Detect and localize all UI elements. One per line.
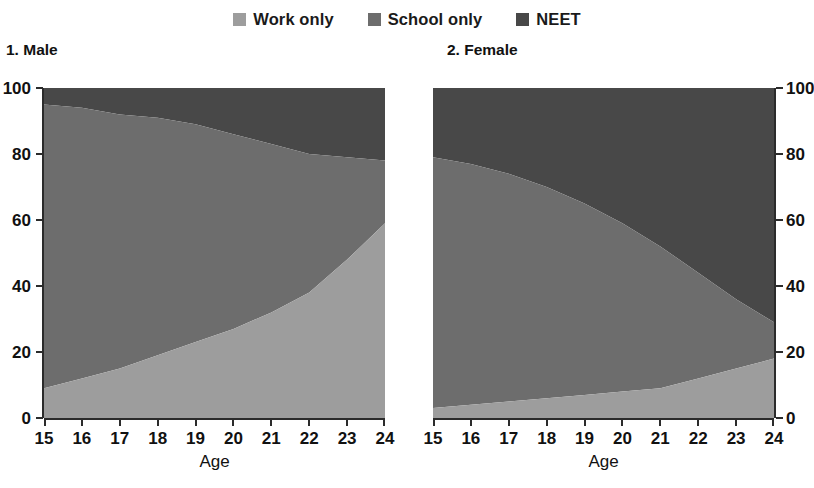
x-tick-mark xyxy=(697,420,699,426)
x-tick-mark xyxy=(433,420,435,426)
y-tick-mark xyxy=(36,219,43,221)
x-tick-label: 22 xyxy=(300,429,319,449)
x-tick-label: 19 xyxy=(575,429,594,449)
panel-male: 1. Male 020406080100 1516171819202122232… xyxy=(0,0,405,488)
x-tick-label: 18 xyxy=(537,429,556,449)
x-tick-label: 17 xyxy=(499,429,518,449)
x-tick-mark xyxy=(584,420,586,426)
y-tick-mark xyxy=(776,219,783,221)
y-tick-mark xyxy=(776,417,783,419)
panel-title-male: 1. Male xyxy=(6,41,58,59)
panel-female: 2. Female 020406080100 15161718192021222… xyxy=(409,0,814,488)
x-tick-mark xyxy=(546,420,548,426)
x-tick-label: 17 xyxy=(110,429,129,449)
y-tick-mark xyxy=(776,285,783,287)
y-tick-label: 80 xyxy=(0,146,31,163)
x-tick-mark xyxy=(621,420,623,426)
y-tick-label: 100 xyxy=(786,80,814,97)
x-tick-mark xyxy=(308,420,310,426)
x-axis-title: Age xyxy=(199,452,229,472)
y-tick-label: 20 xyxy=(786,344,805,361)
x-tick-mark xyxy=(195,420,197,426)
x-tick-label: 15 xyxy=(35,429,54,449)
y-tick-label: 40 xyxy=(0,278,31,295)
y-tick-mark xyxy=(776,153,783,155)
x-tick-label: 16 xyxy=(461,429,480,449)
y-tick-label: 0 xyxy=(786,410,795,427)
x-tick-label: 24 xyxy=(376,429,395,449)
x-tick-mark xyxy=(157,420,159,426)
y-axis-line xyxy=(774,88,776,418)
x-tick-mark xyxy=(346,420,348,426)
plot-area-female xyxy=(433,88,774,418)
x-axis-line xyxy=(433,418,774,420)
x-tick-label: 21 xyxy=(651,429,670,449)
y-tick-mark xyxy=(776,351,783,353)
x-tick-label: 23 xyxy=(338,429,357,449)
y-tick-mark xyxy=(776,87,783,89)
x-tick-mark xyxy=(735,420,737,426)
y-tick-mark xyxy=(36,87,43,89)
y-tick-label: 60 xyxy=(786,212,805,229)
x-tick-label: 15 xyxy=(424,429,443,449)
x-tick-label: 23 xyxy=(727,429,746,449)
x-tick-mark xyxy=(232,420,234,426)
x-tick-label: 22 xyxy=(689,429,708,449)
y-tick-mark xyxy=(36,153,43,155)
y-tick-mark xyxy=(36,285,43,287)
x-axis-title: Age xyxy=(588,452,618,472)
x-tick-label: 16 xyxy=(72,429,91,449)
y-tick-label: 20 xyxy=(0,344,31,361)
y-tick-label: 100 xyxy=(0,80,31,97)
x-tick-mark xyxy=(270,420,272,426)
chart-page: Work only School only NEET 1. Male 02040… xyxy=(0,0,814,488)
x-tick-mark xyxy=(119,420,121,426)
panel-title-female: 2. Female xyxy=(447,41,518,59)
y-axis-line xyxy=(42,88,44,418)
x-tick-mark xyxy=(508,420,510,426)
x-tick-mark xyxy=(81,420,83,426)
y-tick-label: 0 xyxy=(0,410,31,427)
plot-area-male xyxy=(44,88,385,418)
x-tick-mark xyxy=(383,420,385,426)
x-tick-mark xyxy=(470,420,472,426)
x-tick-label: 21 xyxy=(262,429,281,449)
x-tick-label: 19 xyxy=(186,429,205,449)
x-tick-label: 24 xyxy=(765,429,784,449)
y-tick-label: 40 xyxy=(786,278,805,295)
x-axis-line xyxy=(44,418,385,420)
x-tick-mark xyxy=(772,420,774,426)
x-tick-label: 20 xyxy=(224,429,243,449)
x-tick-mark xyxy=(659,420,661,426)
y-tick-label: 60 xyxy=(0,212,31,229)
y-tick-mark xyxy=(36,417,43,419)
x-tick-mark xyxy=(44,420,46,426)
x-tick-label: 18 xyxy=(148,429,167,449)
y-tick-label: 80 xyxy=(786,146,805,163)
x-tick-label: 20 xyxy=(613,429,632,449)
y-tick-mark xyxy=(36,351,43,353)
